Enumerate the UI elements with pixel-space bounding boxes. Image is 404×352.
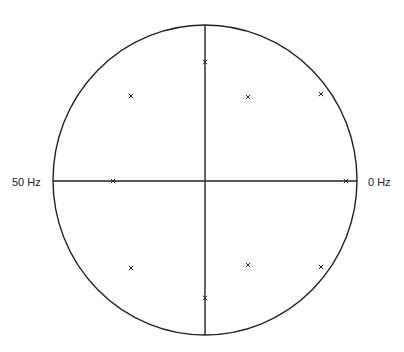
pole-marker-x-icon [319,265,323,269]
pole-marker-x-icon [246,263,250,267]
pole-zero-plot [0,0,404,352]
pole-marker-x-icon [319,92,323,96]
label-50hz: 50 Hz [12,176,41,188]
label-0hz: 0 Hz [368,176,391,188]
pole-marker-x-icon [129,94,133,98]
poles-group [111,60,348,300]
pole-marker-x-icon [246,95,250,99]
pole-marker-x-icon [129,266,133,270]
